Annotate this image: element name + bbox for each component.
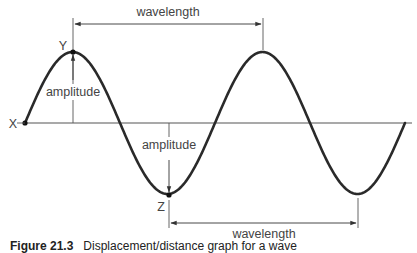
point-x-label: X [9,117,18,131]
figure-number: Figure 21.3 [10,239,73,253]
amplitude-crest-label: amplitude [46,85,100,99]
figure-caption: Figure 21.3Displacement/distance graph f… [10,239,297,253]
wavelength-top-label: wavelength [135,5,199,19]
amplitude-trough-label: amplitude [142,138,196,152]
point-z-dot [166,192,171,197]
point-y-label: Y [59,39,68,53]
figure-caption-text: Displacement/distance graph for a wave [83,239,296,253]
point-z-label: Z [157,200,165,214]
point-y-dot [70,49,75,54]
